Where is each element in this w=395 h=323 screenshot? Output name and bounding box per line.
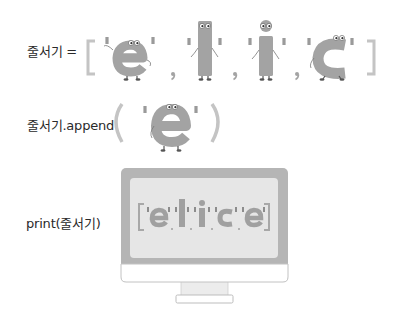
monitor-icon [121,168,288,303]
comma-icon [171,72,175,80]
comma-icon [233,72,237,80]
close-paren-icon [212,104,218,142]
monitor-base [176,295,233,303]
comma-icon [295,72,299,80]
character-i-icon [248,20,285,81]
open-paren-icon [116,104,122,142]
append-argument [116,104,218,152]
character-e-icon [104,37,155,81]
close-bracket-icon [367,41,374,74]
character-l-icon [187,21,221,81]
list-illustration [0,0,395,323]
open-bracket-icon [88,41,95,74]
monitor-stand [181,281,228,296]
character-c-icon [307,35,353,80]
character-e-icon [151,104,186,151]
list-literal [88,20,374,81]
